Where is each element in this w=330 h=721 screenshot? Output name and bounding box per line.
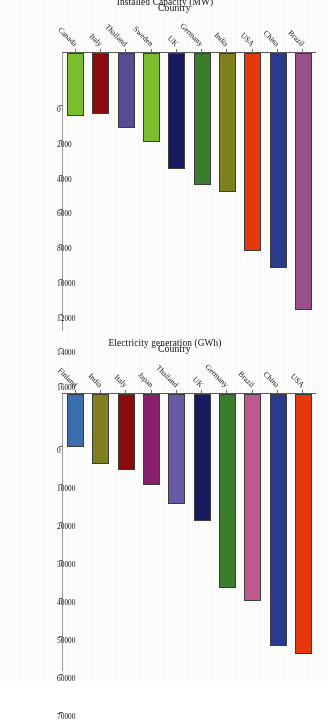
- bar-row: [295, 394, 312, 671]
- bar-row: [194, 394, 211, 671]
- bar-italy[interactable]: [92, 53, 109, 114]
- category-label-canada: Canada: [56, 25, 79, 48]
- category-tick: [201, 390, 202, 394]
- value-tick-label: 12000: [57, 314, 75, 323]
- bar-row: [295, 53, 312, 331]
- bar-row: [244, 53, 261, 331]
- category-label-italy: Italy: [113, 373, 129, 389]
- bar-brazil[interactable]: [244, 394, 261, 601]
- category-tick: [302, 49, 303, 53]
- bar-thailand[interactable]: [118, 53, 135, 128]
- bar-germany[interactable]: [219, 394, 236, 588]
- category-label-uk: UK: [191, 375, 205, 389]
- category-tick: [277, 49, 278, 53]
- category-tick: [100, 390, 101, 394]
- bar-japan[interactable]: [143, 394, 160, 485]
- value-tick-label: 0: [57, 446, 61, 455]
- electricity-generation-chart: Electricity generation (GWh) USAChinaBra…: [0, 341, 330, 681]
- category-tick: [226, 49, 227, 53]
- bar-row: [219, 394, 236, 671]
- category-label-usa: USA: [239, 31, 256, 48]
- bar-row: [168, 394, 185, 671]
- value-tick-label: 8000: [57, 244, 72, 253]
- category-label-usa: USA: [289, 372, 306, 389]
- value-tick-label: 10000: [57, 484, 75, 493]
- bar-row: [92, 394, 109, 671]
- category-label-brazil: Brazil: [236, 369, 256, 389]
- category-label-china: China: [262, 29, 282, 49]
- bar-row: [244, 394, 261, 671]
- category-label-finland: Finland: [56, 366, 79, 389]
- category-label-thailand: Thailand: [154, 363, 180, 389]
- value-tick-label: 2000: [57, 140, 72, 149]
- value-tick-label: 40000: [57, 598, 75, 607]
- bar-brazil[interactable]: [295, 53, 312, 310]
- category-label-india: India: [86, 371, 104, 389]
- installed-capacity-chart: Installed Capacity (MW) BrazilChinaUSAIn…: [0, 0, 330, 341]
- category-tick: [252, 390, 253, 394]
- bar-india[interactable]: [92, 394, 109, 464]
- bar-uk[interactable]: [168, 53, 185, 169]
- bar-china[interactable]: [270, 394, 287, 646]
- bar-row: [270, 394, 287, 671]
- bar-row: [270, 53, 287, 331]
- category-label-japan: Japan: [136, 370, 155, 389]
- value-tick-label: 10000: [57, 279, 75, 288]
- category-label-germany: Germany: [204, 362, 231, 389]
- bar-row: [118, 394, 135, 671]
- category-tick: [252, 49, 253, 53]
- bar-germany[interactable]: [194, 53, 211, 185]
- bar-usa[interactable]: [295, 394, 312, 654]
- category-label-china: China: [262, 370, 282, 390]
- category-tick: [151, 49, 152, 53]
- value-tick-label: 0: [57, 105, 61, 114]
- plot-area-generation: USAChinaBrazilGermanyUKThailandJapanItal…: [62, 393, 316, 671]
- bars-generation: [63, 394, 316, 671]
- category-label-uk: UK: [166, 34, 180, 48]
- category-label-thailand: Thailand: [103, 22, 129, 48]
- value-tick-label: 6000: [57, 209, 72, 218]
- category-tick: [176, 49, 177, 53]
- value-tick-label: 4000: [57, 175, 72, 184]
- x-axis-title-capacity: Country: [158, 2, 172, 13]
- category-label-sweden: Sweden: [131, 24, 155, 48]
- value-tick-label: 30000: [57, 560, 75, 569]
- bar-row: [92, 53, 109, 331]
- bar-row: [168, 53, 185, 331]
- category-label-brazil: Brazil: [287, 28, 307, 48]
- bar-finland[interactable]: [67, 394, 84, 447]
- bar-row: [194, 53, 211, 331]
- bar-row: [67, 394, 84, 671]
- value-tick-label: 60000: [57, 674, 75, 683]
- x-axis-title-generation: Country: [158, 343, 172, 354]
- plot-area-capacity: BrazilChinaUSAIndiaGermanyUKSwedenThaila…: [62, 52, 316, 331]
- value-tick-label: 70000: [57, 712, 75, 721]
- category-tick: [226, 390, 227, 394]
- category-tick: [125, 49, 126, 53]
- category-tick: [75, 49, 76, 53]
- bar-thailand[interactable]: [168, 394, 185, 504]
- category-tick: [125, 390, 126, 394]
- bar-row: [118, 53, 135, 331]
- category-tick: [277, 390, 278, 394]
- bar-row: [219, 53, 236, 331]
- category-tick: [75, 390, 76, 394]
- bar-uk[interactable]: [194, 394, 211, 521]
- bars-capacity: [63, 53, 316, 331]
- bar-sweden[interactable]: [143, 53, 160, 142]
- bar-china[interactable]: [270, 53, 287, 268]
- bar-india[interactable]: [219, 53, 236, 192]
- category-tick: [151, 390, 152, 394]
- bar-row: [143, 394, 160, 671]
- bar-italy[interactable]: [118, 394, 135, 470]
- category-label-italy: Italy: [88, 32, 104, 48]
- category-label-india: India: [213, 30, 231, 48]
- value-tick-label: 20000: [57, 522, 75, 531]
- category-tick: [176, 390, 177, 394]
- bar-row: [143, 53, 160, 331]
- category-tick: [302, 390, 303, 394]
- bar-canada[interactable]: [67, 53, 84, 116]
- bar-usa[interactable]: [244, 53, 261, 251]
